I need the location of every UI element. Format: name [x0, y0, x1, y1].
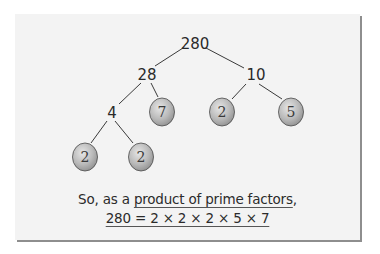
tree-edges	[91, 48, 282, 143]
node-label: 28	[137, 66, 156, 84]
equation-line: 280 = 2 × 2 × 2 × 5 × 7	[15, 210, 360, 226]
key-term-product-of-prime-factors: product of prime factors	[134, 191, 293, 207]
caption-line: So, as a product of prime factors,	[15, 191, 360, 207]
node-label: 5	[287, 104, 296, 120]
composite-node-28: 28	[137, 66, 156, 84]
node-label: 4	[107, 104, 117, 122]
node-label: 10	[246, 66, 265, 84]
composite-node-10: 10	[246, 66, 265, 84]
prime-node-2: 2	[129, 143, 154, 171]
caption-suffix: ,	[293, 191, 297, 207]
node-label: 280	[181, 35, 210, 53]
node-label: 7	[158, 104, 167, 120]
composite-node-4: 4	[107, 104, 117, 122]
node-label: 2	[81, 149, 90, 165]
prime-node-2: 2	[73, 143, 98, 171]
prime-node-5: 5	[279, 98, 304, 126]
composite-node-280: 280	[181, 35, 210, 53]
caption-prefix: So, as a	[78, 191, 134, 207]
prime-node-2: 2	[210, 98, 235, 126]
node-label: 2	[137, 149, 146, 165]
prime-factorization-equation: 280 = 2 × 2 × 2 × 5 × 7	[106, 210, 270, 226]
node-label: 2	[218, 104, 227, 120]
prime-node-7: 7	[150, 98, 175, 126]
